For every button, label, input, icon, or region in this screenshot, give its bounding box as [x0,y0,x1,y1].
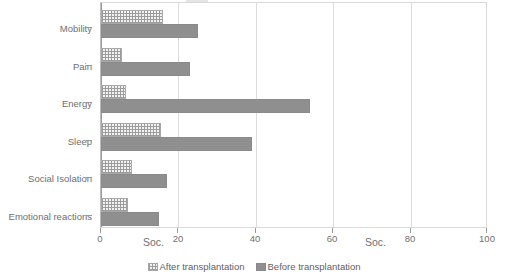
bar-social-isolation-after [101,160,132,174]
category-tick [86,140,92,141]
legend-label-after: After transplantation [160,262,245,272]
bar-sleep-before [101,137,252,151]
bar-mobility-before [101,24,198,38]
x-axis-label-40: 40 [240,234,270,244]
stray-axis-text-right: Soc. [365,237,386,248]
legend-swatch-solid-icon [256,263,266,271]
category-tick [86,102,92,103]
bar-social-isolation-before [101,174,167,188]
category-tick [86,65,92,66]
bar-energy-before [101,99,310,113]
x-axis-label-100: 100 [472,234,502,244]
stray-axis-text-left: Soc. [143,237,164,248]
chart-legend: After transplantation Before transplanta… [0,260,508,274]
bar-pain-before [101,62,190,76]
legend-item-after-transplantation: After transplantation [148,262,245,272]
category-tick [86,177,92,178]
category-label-social-isolation: Social Isolation [28,174,92,184]
bar-group-energy [101,84,486,122]
x-axis-label-0: 0 [85,234,115,244]
bar-group-sleep [101,122,486,160]
bar-pain-after [101,48,122,62]
plot-area [100,2,487,228]
legend-label-before: Before transplantation [268,262,361,272]
category-label-sleep: Sleep [68,137,92,147]
bar-sleep-after [101,123,161,137]
bar-emotional-reactions-before [101,212,159,226]
x-axis-label-60: 60 [317,234,347,244]
bar-mobility-after [101,10,163,24]
category-label-energy: Energy [62,99,92,109]
category-label-pain: Pain [73,62,92,72]
category-tick [86,27,92,28]
bar-group-mobility [101,9,486,47]
bar-chart: Mobility Pain Energy Sleep Social Isolat… [0,0,508,277]
bar-energy-after [101,85,126,99]
category-axis: Mobility Pain Energy Sleep Social Isolat… [0,0,92,228]
category-label-emotional-reactions: Emotional reactions [9,212,92,222]
legend-swatch-dotted-icon [148,263,158,271]
bar-group-pain [101,47,486,85]
x-axis-labels: 0 20 40 60 80 100 Soc. Soc. [0,234,508,250]
category-tick [86,215,92,216]
legend-item-before-transplantation: Before transplantation [256,262,361,272]
category-label-mobility: Mobility [60,24,92,34]
x-axis-label-20: 20 [163,234,193,244]
x-axis-label-80: 80 [395,234,425,244]
bar-emotional-reactions-after [101,198,128,212]
bar-group-social-isolation [101,159,486,197]
